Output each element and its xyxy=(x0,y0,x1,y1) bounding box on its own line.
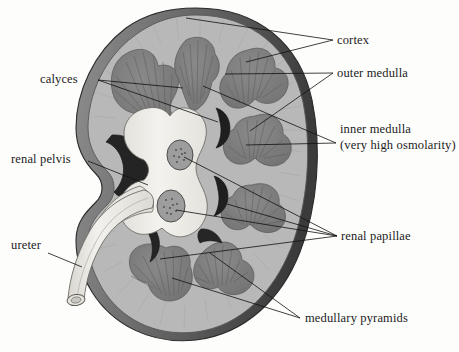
label-calyces: calyces xyxy=(40,72,78,86)
kidney-body xyxy=(66,8,317,341)
label-renal-papillae: renal papillae xyxy=(341,229,411,243)
label-renal-pelvis: renal pelvis xyxy=(11,152,71,166)
label-ureter: ureter xyxy=(11,238,42,252)
label-inner-medulla: inner medulla xyxy=(340,122,411,136)
renal-papilla xyxy=(157,190,185,222)
label-inner-medulla-osmolarity: (very high osmolarity) xyxy=(340,138,456,152)
label-medullary-pyramids: medullary pyramids xyxy=(305,311,408,325)
renal-papilla xyxy=(167,140,193,170)
label-outer-medulla: outer medulla xyxy=(337,66,408,80)
figure-canvas: cortex outer medulla inner medulla (very… xyxy=(0,0,459,352)
label-cortex: cortex xyxy=(337,33,370,47)
kidney-diagram: cortex outer medulla inner medulla (very… xyxy=(0,0,459,352)
